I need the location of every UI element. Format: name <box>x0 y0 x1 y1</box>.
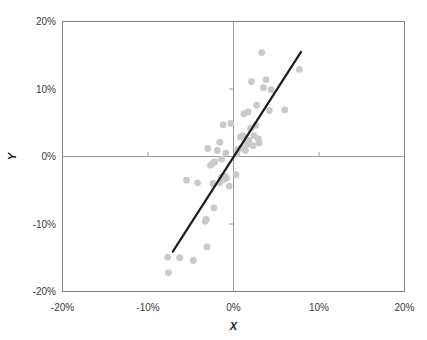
y-tick-label-10: 10% <box>36 84 56 95</box>
scatter-point <box>256 140 263 147</box>
scatter-point <box>266 107 273 114</box>
scatter-point <box>220 121 227 128</box>
scatter-point <box>233 171 240 178</box>
scatter-point <box>203 216 210 223</box>
scatter-point <box>183 177 190 184</box>
x-tick-label-0: 0% <box>226 302 241 313</box>
scatter-point <box>218 156 225 163</box>
x-axis-title: X <box>229 320 238 332</box>
scatter-point <box>204 145 211 152</box>
scatter-point <box>210 204 217 211</box>
x-tick-label-10: 10% <box>309 302 329 313</box>
scatter-point <box>194 179 201 186</box>
y-tick-label-neg20: -20% <box>33 286 56 297</box>
scatter-point <box>216 139 223 146</box>
scatter-point <box>281 107 288 114</box>
x-tick-label-neg10: -10% <box>136 302 159 313</box>
scatter-point <box>222 150 229 157</box>
scatter-point <box>296 66 303 73</box>
chart-canvas: 20% 10% 0% -10% -20% -20% -10% 0% 10% 20… <box>0 0 427 340</box>
scatter-point <box>268 86 275 93</box>
scatter-point <box>204 244 211 251</box>
scatter-point <box>176 254 183 261</box>
scatter-chart: 20% 10% 0% -10% -20% -20% -10% 0% 10% 20… <box>0 0 427 340</box>
chart-background <box>0 0 427 340</box>
y-tick-label-0: 0% <box>42 151 57 162</box>
y-tick-label-20: 20% <box>36 16 56 27</box>
scatter-point <box>250 142 257 149</box>
scatter-point <box>258 49 265 56</box>
x-tick-label-neg20: -20% <box>51 302 74 313</box>
scatter-point <box>245 109 252 116</box>
x-tick-label-20: 20% <box>394 302 414 313</box>
scatter-point <box>214 147 221 154</box>
scatter-point <box>165 269 172 276</box>
scatter-point <box>260 84 267 91</box>
y-tick-label-neg10: -10% <box>33 219 56 230</box>
scatter-point <box>248 78 255 85</box>
scatter-point <box>164 254 171 261</box>
scatter-point <box>223 175 230 182</box>
scatter-point <box>226 183 233 190</box>
scatter-point <box>253 102 260 109</box>
scatter-point <box>190 257 197 264</box>
scatter-point <box>211 159 218 166</box>
scatter-point <box>228 120 235 127</box>
scatter-point <box>242 147 249 154</box>
scatter-point <box>263 76 270 83</box>
